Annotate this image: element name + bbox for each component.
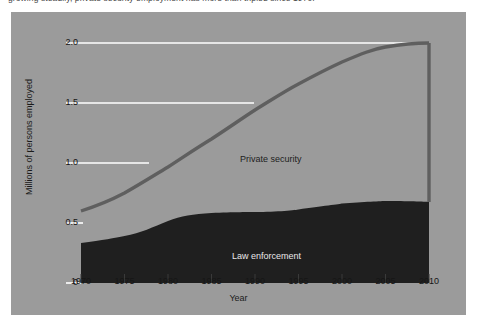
series-line-private-security [81,43,429,211]
x-tick-label-1985: 1985 [201,277,221,286]
y-tick-label-1-0: 1.0 [65,158,78,167]
x-axis-title: Year [11,293,466,303]
y-tick-label-2-0: 2.0 [65,38,78,47]
y-tick-label-0-5: 0.5 [65,218,78,227]
chart-panel: 2.0 1.5 1.0 0.5 0 1970 1975 1980 1985 19… [11,12,466,315]
chart-plot-svg [11,12,466,315]
plot-area: 2.0 1.5 1.0 0.5 0 1970 1975 1980 1985 19… [11,12,466,315]
x-tick-label-2010: 2010 [419,277,439,286]
series-label-private-security: Private security [240,154,302,164]
x-tick-label-2000: 2000 [332,277,352,286]
clipped-caption-text: growing steadily, private security emplo… [8,0,448,5]
y-tick-label-1-5: 1.5 [65,98,78,107]
y-axis-title: Millions of persons employed [24,42,34,232]
x-tick-label-1980: 1980 [158,277,178,286]
series-area-law-enforcement [81,201,429,283]
x-tick-label-1970: 1970 [71,277,91,286]
x-tick-label-2005: 2005 [375,277,395,286]
series-label-law-enforcement: Law enforcement [232,251,301,261]
x-tick-label-1995: 1995 [288,277,308,286]
x-tick-label-1990: 1990 [245,277,265,286]
x-tick-label-1975: 1975 [114,277,134,286]
